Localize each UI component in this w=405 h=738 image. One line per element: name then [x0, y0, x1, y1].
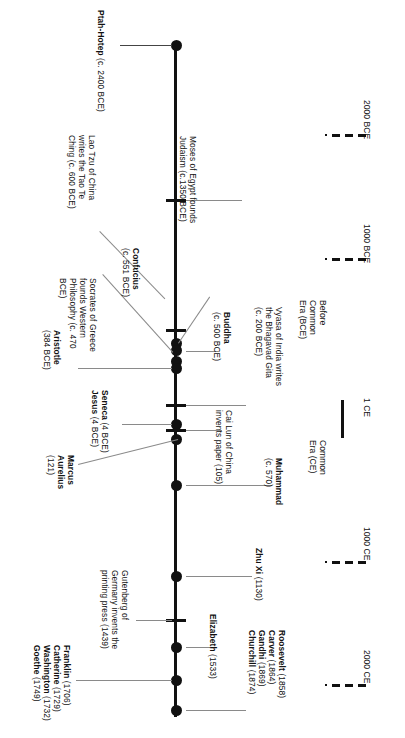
label-cai-lun-line2: invents paper (105): [214, 410, 224, 484]
label-lao-tzu-line2: writes the Tao Te: [77, 135, 87, 199]
label-carver: Carver (1864): [267, 630, 277, 684]
label-cai-lun-line1: Cai Lun of China: [224, 410, 234, 474]
label-socrates-line3: Philosophy (c. 470: [68, 278, 78, 349]
label-jesus: Jesus (4 BCE): [90, 390, 100, 447]
label-confucius-date: (c. 551 BCE): [121, 248, 131, 297]
leader-line-churchill-group: [186, 710, 246, 711]
label-vyasa-line2: the Bhagavad Gita: [264, 307, 274, 378]
label-marcus-line3: (121): [46, 455, 56, 475]
era-label-after-line2: Era (CE): [307, 440, 318, 473]
event-marker-churchill-group[interactable]: [171, 705, 182, 716]
era-label-before-line1: Before: [317, 300, 328, 325]
timeline-axis-line: [174, 45, 177, 717]
event-marker-zhu-xi[interactable]: [171, 571, 182, 582]
event-marker-ptah-hotep[interactable]: [171, 40, 182, 51]
event-marker-muhammad[interactable]: [171, 480, 182, 491]
leader-line-vyasa: [186, 405, 246, 406]
label-buddha-date: (c. 500 BCE): [212, 312, 222, 361]
leader-line-muhammad: [186, 485, 272, 486]
label-ptah-hotep: Ptah-Hotep (c. 2400 BCE): [96, 10, 106, 112]
era-label-after-line1: Common: [317, 440, 328, 475]
label-washington: Washington (1732): [42, 645, 52, 721]
event-marker-lao-tzu[interactable]: [166, 329, 186, 332]
label-gutenberg-line1: Gutenberg of: [120, 570, 130, 620]
label-gutenberg-line2: Germany invents the: [110, 570, 120, 649]
label-moses-line1: Moses of Egypt founds: [188, 136, 198, 223]
label-socrates-line4: BCE): [58, 278, 68, 298]
label-aristotle-date: (384 BCE): [42, 330, 52, 370]
leader-line-aristotle: [78, 368, 172, 369]
label-gandhi: Gandhi (1869): [257, 630, 267, 687]
leader-line-gutenberg: [136, 620, 172, 621]
leader-line-seneca-jesus: [122, 424, 172, 425]
event-marker-vyasa[interactable]: [166, 404, 186, 407]
label-muhammad-date: (c. 570): [264, 458, 274, 487]
era-label-before-line3: Era (BCE): [297, 300, 308, 339]
label-seneca: Seneca (4 BCE): [100, 390, 110, 453]
label-confucius-name: Confucius: [131, 248, 141, 290]
label-churchill: Churchill (1874): [247, 630, 257, 694]
label-lao-tzu-line3: Ching (c. 600 BCE): [67, 135, 77, 209]
leader-line-elizabeth: [186, 647, 210, 648]
label-socrates-line2: founds Western: [78, 278, 88, 338]
era-label-before-line2: Common: [307, 300, 318, 335]
leader-line-ptah-hotep: [120, 45, 172, 46]
label-marcus-line1: Marcus: [66, 455, 76, 485]
leader-line-zhu-xi: [186, 576, 252, 577]
label-zhu-xi: Zhu Xi (1130): [254, 548, 264, 601]
label-muhammad-name: Muhammad: [274, 458, 284, 505]
timeline-figure: Ptah-Hotep (c. 2400 BCE) Lao Tzu of Chin…: [0, 0, 405, 738]
event-marker-franklin-group[interactable]: [171, 675, 182, 686]
event-marker-elizabeth[interactable]: [171, 642, 182, 653]
label-franklin: Franklin (1706): [62, 645, 72, 706]
label-vyasa-line1: Vyasa of India writes: [274, 307, 284, 386]
label-lao-tzu-line1: Lao Tzu of China: [87, 135, 97, 200]
label-vyasa-line3: (c. 200 BCE): [254, 307, 264, 356]
label-elizabeth: Elizabeth (1533): [208, 614, 218, 679]
event-marker-seneca-jesus[interactable]: [171, 419, 182, 430]
event-marker-aristotle[interactable]: [171, 363, 182, 374]
label-roosevelt: Roosevelt (1858): [277, 630, 287, 698]
label-aristotle-name: Aristotle: [52, 330, 62, 365]
label-catherine: Catherine (1729): [52, 645, 62, 712]
label-socrates-line1: Socrates of Greece: [88, 278, 98, 352]
label-gutenberg-line3: printing press (1439): [100, 570, 110, 649]
leader-line-confucius: [178, 297, 210, 344]
event-marker-cai-lun[interactable]: [166, 429, 186, 432]
leader-line-franklin-group: [76, 680, 172, 681]
label-goethe: Goethe (1749): [32, 645, 42, 702]
label-buddha-name: Buddha: [222, 312, 232, 344]
label-moses-line2: Judaism (c.1350 BCE): [178, 136, 188, 222]
label-marcus-line2: Aurelius: [56, 455, 66, 489]
event-marker-buddha[interactable]: [171, 345, 182, 356]
